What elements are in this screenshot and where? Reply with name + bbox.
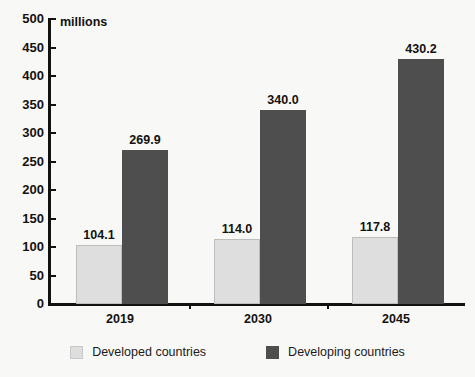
y-axis-tick-label: 300: [0, 126, 44, 139]
x-axis-tick: [327, 306, 329, 309]
bar-2019-developing: [122, 150, 168, 304]
chart-legend: Developed countriesDeveloping countries: [0, 345, 475, 359]
y-axis-tick: [51, 303, 56, 305]
legend-label: Developing countries: [288, 345, 405, 359]
y-axis-tick-label: 350: [0, 98, 44, 111]
y-axis-tick: [51, 132, 56, 134]
y-axis-tick: [51, 18, 56, 20]
y-axis-tick-label: 400: [0, 69, 44, 82]
bar-value-label: 269.9: [116, 134, 174, 147]
y-axis-tick: [51, 218, 56, 220]
y-axis-tick-label: 0: [0, 297, 44, 310]
legend-item[interactable]: Developing countries: [266, 345, 405, 359]
bar-value-label: 117.8: [346, 221, 404, 234]
bar-2045-developing: [398, 59, 444, 304]
legend-item[interactable]: Developed countries: [70, 345, 206, 359]
bar-value-label: 430.2: [392, 43, 450, 56]
bar-value-label: 104.1: [70, 229, 128, 242]
y-axis-tick-label: 50: [0, 269, 44, 282]
y-axis-tick-label: 450: [0, 41, 44, 54]
legend-label: Developed countries: [92, 345, 206, 359]
y-axis-tick: [51, 189, 56, 191]
y-axis-tick-label: 250: [0, 155, 44, 168]
y-axis-tick-label: 100: [0, 240, 44, 253]
y-axis-tick: [51, 161, 56, 163]
y-axis-tick-label: 200: [0, 183, 44, 196]
x-axis-category-label: 2030: [218, 312, 298, 326]
bar-value-label: 114.0: [208, 223, 266, 236]
bar-2030-developing: [260, 110, 306, 304]
y-axis-tick: [51, 275, 56, 277]
y-axis-tick-label: 500: [0, 12, 44, 25]
bar-2019-developed: [76, 245, 122, 304]
bar-2045-developed: [352, 237, 398, 304]
y-axis-tick: [51, 47, 56, 49]
y-axis-tick: [51, 246, 56, 248]
x-axis-category-label: 2045: [356, 312, 436, 326]
y-axis-tick: [51, 104, 56, 106]
y-axis-unit-label: millions: [60, 15, 107, 29]
legend-swatch-icon: [70, 346, 83, 359]
bar-chart: millions 500450400350300250200150100500 …: [0, 0, 475, 377]
legend-swatch-icon: [266, 346, 279, 359]
bar-value-label: 340.0: [254, 94, 312, 107]
x-axis-category-label: 2019: [80, 312, 160, 326]
x-axis-tick: [189, 306, 191, 309]
y-axis-tick: [51, 75, 56, 77]
y-axis-tick-label: 150: [0, 212, 44, 225]
bar-2030-developed: [214, 239, 260, 304]
